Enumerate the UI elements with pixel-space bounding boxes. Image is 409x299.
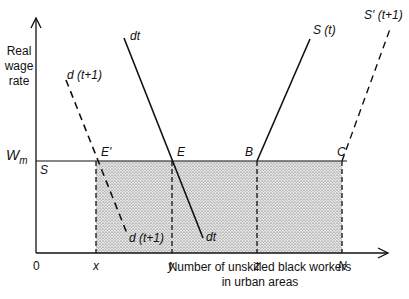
y-axis-label-line3: rate [2, 74, 36, 89]
x-axis-label: Number of unskilled black workers in urb… [130, 260, 390, 290]
tick-x-label: x [93, 259, 99, 273]
dt-top-label: dt [130, 29, 140, 43]
s-left-label: S [40, 163, 48, 177]
d-t1-top-label: d (t+1) [67, 68, 102, 82]
point-c-label: C [337, 145, 346, 159]
s-t-label: S (t) [313, 23, 336, 37]
s-prime-t1-label: S' (t+1) [364, 8, 403, 22]
supply-curve-s-prime-t1 [342, 29, 390, 161]
dt-bottom-label: dt [206, 230, 216, 244]
origin-label: 0 [33, 259, 40, 273]
x-axis-label-line2: in urban areas [130, 275, 390, 290]
point-b-label: B [245, 145, 253, 159]
y-axis-label: Real wage rate [2, 44, 36, 89]
diagram-canvas [0, 0, 409, 299]
y-axis-label-line1: Real [2, 44, 36, 59]
supply-curve-st [257, 39, 310, 161]
y-axis-label-line2: wage [2, 59, 36, 74]
d-t1-bottom-label: d (t+1) [129, 231, 164, 245]
x-axis-label-line1: Number of unskilled black workers [130, 260, 390, 275]
point-e-label: E [177, 145, 185, 159]
wm-label: Wm [6, 148, 28, 168]
point-e-prime-label: E' [101, 145, 111, 159]
